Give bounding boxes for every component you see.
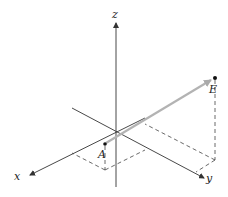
vector-AE	[106, 80, 211, 143]
coordinate-diagram: z x y A E	[0, 0, 228, 197]
diagram-canvas: z x y A E	[0, 0, 228, 197]
point-A	[103, 142, 107, 146]
x-axis-label: x	[14, 170, 21, 183]
projection-lines	[72, 80, 215, 172]
z-axis-label: z	[111, 8, 118, 21]
x-axis	[30, 118, 145, 175]
y-axis	[72, 108, 204, 178]
point-E	[213, 76, 217, 80]
y-axis-label: y	[205, 172, 213, 185]
point-A-label: A	[97, 148, 106, 161]
point-E-label: E	[208, 83, 217, 96]
